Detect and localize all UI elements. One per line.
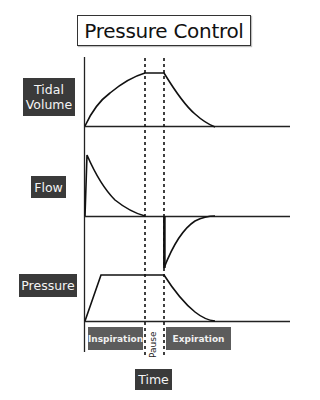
expiratory-flow-curve <box>164 216 215 268</box>
inspiratory-flow-curve <box>85 155 145 216</box>
pause-phase-label: Pause <box>147 330 159 360</box>
inspiration-phase-label: Inspiration <box>88 327 143 350</box>
expiration-phase-label: Expiration <box>166 327 231 350</box>
time-axis-label: Time <box>135 369 172 390</box>
tidal-volume-curve <box>85 73 215 127</box>
pressure-curve <box>85 275 215 321</box>
